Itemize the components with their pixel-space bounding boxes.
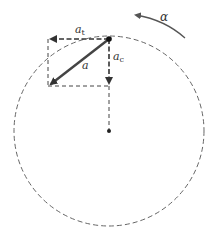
angular-acceleration-label: α	[160, 10, 168, 24]
centripetal-label: ac	[113, 50, 125, 64]
center-point	[107, 129, 111, 133]
acceleration-diagram: at ac a α	[0, 0, 216, 237]
total-acceleration-vector	[51, 39, 109, 84]
diagram-canvas: at ac a α	[0, 0, 216, 237]
total-acceleration-label: a	[82, 59, 89, 72]
particle-point	[106, 36, 112, 42]
tangential-label: at	[75, 23, 86, 37]
